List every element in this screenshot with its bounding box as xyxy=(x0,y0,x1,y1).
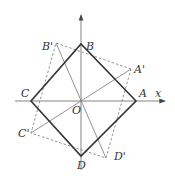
label-x: x xyxy=(155,87,162,100)
original-square xyxy=(31,44,136,156)
label-a-prime: A' xyxy=(133,63,145,76)
label-o: O xyxy=(72,104,81,117)
label-b-prime: B' xyxy=(41,40,53,53)
label-b: B xyxy=(85,40,94,53)
label-d-prime: D' xyxy=(113,150,126,163)
label-d: D xyxy=(76,159,86,172)
diagram-canvas: x O A B C D A' B' C' D' xyxy=(0,0,175,181)
label-c: C xyxy=(21,87,30,100)
rotation-diagram: x O A B C D A' B' C' D' xyxy=(0,0,175,181)
label-a: A xyxy=(138,87,147,100)
label-c-prime: C' xyxy=(18,127,29,140)
